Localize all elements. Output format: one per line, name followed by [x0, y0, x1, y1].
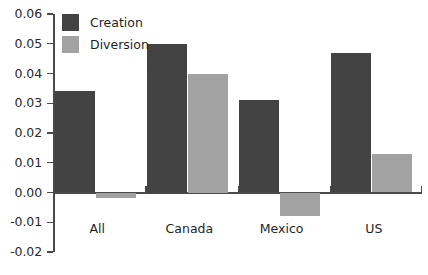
y-tick-mark — [47, 13, 53, 14]
x-tick-mark-end — [421, 186, 422, 193]
y-tick-label: 0.00 — [0, 185, 42, 200]
legend-item-creation[interactable]: Creation — [62, 11, 149, 33]
y-tick-label: -0.02 — [0, 244, 42, 259]
x-category-label-canada: Canada — [166, 221, 214, 236]
bar-mexico-diversion — [280, 193, 320, 217]
bar-chart: 0.060.050.040.030.020.010.00-0.01-0.02 A… — [0, 0, 428, 275]
y-tick-mark — [47, 132, 53, 133]
bar-us-diversion — [372, 154, 412, 193]
y-tick-label: 0.04 — [0, 66, 42, 81]
y-tick-mark — [47, 43, 53, 44]
y-tick-mark — [47, 192, 53, 193]
chart-legend: Creation Diversion — [62, 11, 149, 55]
bar-canada-creation — [147, 44, 187, 193]
y-tick-label: -0.01 — [0, 214, 42, 229]
legend-swatch-creation-icon — [62, 14, 79, 31]
x-category-label-mexico: Mexico — [260, 221, 304, 236]
y-tick-mark — [47, 222, 53, 223]
y-tick-label: 0.05 — [0, 36, 42, 51]
bar-mexico-creation — [239, 100, 279, 192]
y-tick-mark — [47, 162, 53, 163]
legend-label-creation: Creation — [90, 15, 143, 30]
y-tick-label: 0.01 — [0, 155, 42, 170]
bar-all-diversion — [96, 193, 136, 199]
bar-us-creation — [331, 53, 371, 193]
x-category-label-all: All — [89, 221, 105, 236]
legend-label-diversion: Diversion — [90, 37, 149, 52]
y-tick-mark — [47, 103, 53, 104]
y-tick-label: 0.02 — [0, 125, 42, 140]
x-category-label-us: US — [365, 221, 382, 236]
y-tick-label: 0.03 — [0, 95, 42, 110]
legend-swatch-diversion-icon — [62, 36, 79, 53]
y-tick-mark — [47, 251, 53, 252]
y-tick-mark — [47, 73, 53, 74]
bar-canada-diversion — [188, 74, 228, 193]
legend-item-diversion[interactable]: Diversion — [62, 33, 149, 55]
bar-all-creation — [55, 91, 95, 192]
y-tick-label: 0.06 — [0, 6, 42, 21]
